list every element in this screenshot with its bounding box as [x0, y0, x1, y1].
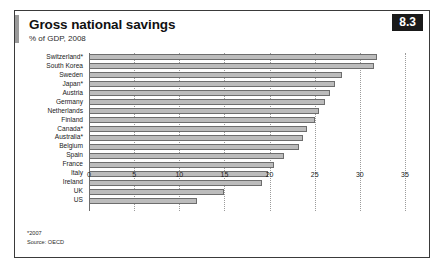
figure-number-badge: 8.3: [392, 14, 423, 31]
category-label: Germany: [56, 99, 83, 106]
category-label: France: [62, 161, 83, 168]
x-tick-label: 25: [311, 171, 319, 178]
bar: [89, 108, 319, 114]
bar: [89, 144, 299, 150]
category-label: Finland: [61, 117, 83, 124]
bar: [89, 162, 274, 168]
bar: [89, 126, 307, 132]
chart-subtitle: % of GDP, 2008: [29, 34, 86, 43]
page-title: Gross national savings: [29, 17, 175, 32]
category-label: Canada*: [57, 126, 83, 133]
category-label: Japan*: [62, 81, 83, 88]
bar: [89, 63, 374, 69]
x-tick-label: 30: [356, 171, 364, 178]
x-tick-label: 20: [266, 171, 274, 178]
bar: [89, 81, 335, 87]
value-axis: 05101520253035: [89, 169, 405, 185]
bar: [89, 90, 330, 96]
category-label: US: [74, 197, 83, 204]
bar: [89, 198, 197, 204]
bar: [89, 72, 342, 78]
category-label: Sweden: [59, 72, 83, 79]
category-label: South Korea: [46, 63, 83, 70]
gridline: [405, 53, 406, 211]
title-accent-bar: [15, 15, 19, 43]
x-tick-label: 5: [132, 171, 136, 178]
footnote-line: Source: OECD: [27, 238, 64, 247]
category-label: Austria: [62, 90, 83, 97]
category-label: Belgium: [59, 143, 83, 150]
bar: [89, 99, 325, 105]
bar: [89, 54, 377, 60]
category-label: Italy: [71, 170, 83, 177]
bar: [89, 135, 303, 141]
category-axis-labels: Switzerland*South KoreaSwedenJapan*Austr…: [15, 53, 87, 205]
chart-figure: Gross national savings % of GDP, 2008 8.…: [14, 10, 430, 258]
category-label: UK: [74, 188, 83, 195]
gridline: [360, 53, 361, 211]
chart-header: Gross national savings % of GDP, 2008 8.…: [15, 11, 429, 51]
bar: [89, 117, 315, 123]
category-label: Australia*: [55, 134, 83, 141]
plot-area: Switzerland*South KoreaSwedenJapan*Austr…: [15, 53, 431, 225]
x-tick-label: 15: [221, 171, 229, 178]
bar: [89, 189, 224, 195]
footnotes: *2007Source: OECD: [27, 229, 64, 247]
category-label: Spain: [66, 152, 83, 159]
category-label: Ireland: [63, 179, 83, 186]
x-tick-label: 10: [175, 171, 183, 178]
category-label: Switzerland*: [46, 54, 83, 61]
x-tick-label: 0: [87, 171, 91, 178]
category-label: Netherlands: [47, 108, 83, 115]
x-tick-label: 35: [401, 171, 409, 178]
footnote-line: *2007: [27, 229, 64, 238]
bar: [89, 153, 284, 159]
